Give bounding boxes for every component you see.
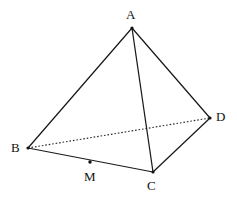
geometry-figure: A B C D M [0,0,237,197]
vertex-label-D: D [216,110,225,123]
edge-AB [28,28,132,148]
vertex-dot-C [151,170,154,173]
edge-CD [153,118,210,172]
point-dot-M [88,160,91,163]
vertex-dot-A [130,26,133,29]
vertex-label-C: C [147,179,156,192]
vertex-label-B: B [11,141,20,154]
vertex-dot-B [26,146,29,149]
tetrahedron-svg [0,0,237,197]
vertex-label-A: A [126,8,135,21]
point-label-M: M [84,170,96,183]
vertex-dot-D [208,116,211,119]
edge-AC [132,28,153,172]
